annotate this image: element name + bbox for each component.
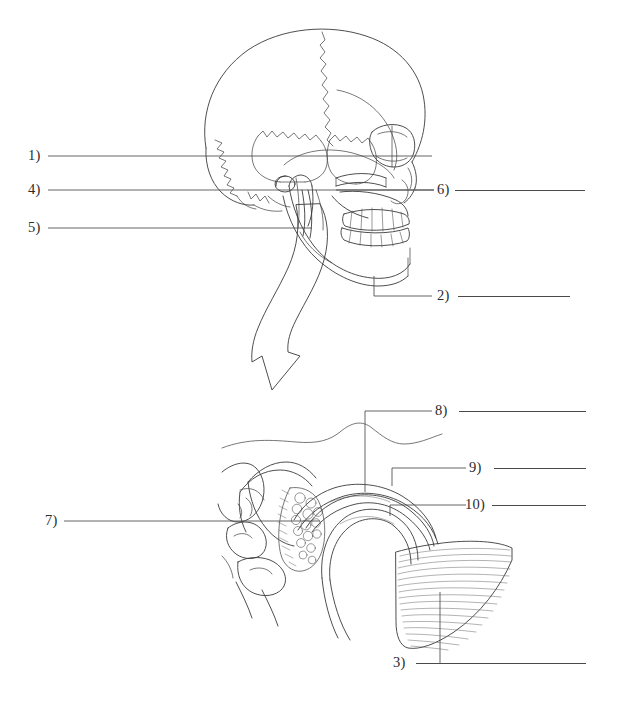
mandibular-teeth xyxy=(341,228,409,247)
label-9: 9) xyxy=(469,460,481,475)
maxillary-teeth xyxy=(343,208,410,231)
answer-blank-6[interactable] xyxy=(455,190,585,191)
retrodiscal-tissue xyxy=(279,488,325,572)
muscle-fibers xyxy=(396,541,512,650)
lateral-skull-view xyxy=(205,29,425,286)
leader-lines xyxy=(48,156,466,663)
label-4: 4) xyxy=(28,182,40,197)
label-2: 2) xyxy=(437,288,449,303)
answer-blank-2[interactable] xyxy=(458,296,570,297)
label-8: 8) xyxy=(435,403,447,418)
temporal-bone-structures xyxy=(218,463,286,626)
label-7: 7) xyxy=(45,513,57,528)
worksheet-page: .ink { fill:none; stroke:#3a3a3a; stroke… xyxy=(0,0,618,713)
answer-blank-9[interactable] xyxy=(494,468,586,469)
label-1: 1) xyxy=(28,148,40,163)
label-6: 6) xyxy=(437,182,449,197)
label-5: 5) xyxy=(28,220,40,235)
anatomy-illustration: .ink { fill:none; stroke:#3a3a3a; stroke… xyxy=(0,0,618,713)
answer-blank-8[interactable] xyxy=(459,411,586,412)
magnification-arrow xyxy=(252,204,328,390)
label-10: 10) xyxy=(465,497,485,512)
answer-blank-10[interactable] xyxy=(492,505,586,506)
answer-blank-3[interactable] xyxy=(416,663,586,664)
label-3: 3) xyxy=(393,655,405,670)
